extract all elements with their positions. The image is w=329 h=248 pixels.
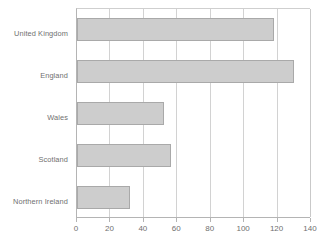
x-tick-60 (176, 218, 177, 222)
category-label-scotland: Scotland (0, 155, 68, 164)
x-tick-label-60: 60 (172, 224, 181, 233)
bar-northern-ireland[interactable] (77, 186, 130, 209)
x-tick-20 (109, 218, 110, 222)
gridline-140 (310, 9, 311, 217)
x-tick-140 (310, 218, 311, 222)
category-label-wales: Wales (0, 113, 68, 122)
x-tick-label-40: 40 (138, 224, 147, 233)
value-axis: 020406080100120140 (76, 218, 310, 248)
x-tick-label-100: 100 (236, 224, 249, 233)
x-tick-label-120: 120 (270, 224, 283, 233)
bar-wales[interactable] (77, 102, 164, 125)
bar-chart: United Kingdom England Wales Scotland No… (0, 0, 329, 248)
x-tick-label-20: 20 (105, 224, 114, 233)
category-label-northern-ireland: Northern Ireland (0, 197, 68, 206)
bar-united-kingdom[interactable] (77, 18, 274, 41)
x-tick-100 (243, 218, 244, 222)
x-tick-label-140: 140 (303, 224, 316, 233)
gridline-120 (277, 9, 278, 217)
x-tick-label-80: 80 (205, 224, 214, 233)
category-label-england: England (0, 71, 68, 80)
plot-area (76, 8, 310, 218)
x-tick-80 (210, 218, 211, 222)
bar-scotland[interactable] (77, 144, 171, 167)
x-tick-40 (143, 218, 144, 222)
bar-england[interactable] (77, 60, 294, 83)
category-axis: United Kingdom England Wales Scotland No… (0, 8, 72, 218)
category-label-united-kingdom: United Kingdom (0, 29, 68, 38)
x-tick-120 (277, 218, 278, 222)
x-tick-0 (76, 218, 77, 222)
x-tick-label-0: 0 (74, 224, 78, 233)
